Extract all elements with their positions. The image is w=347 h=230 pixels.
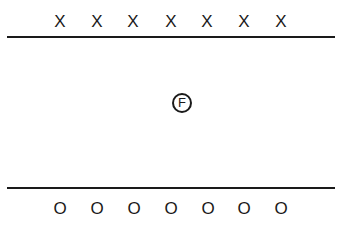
x-mark: X <box>234 10 254 34</box>
x-mark: X <box>271 10 291 34</box>
top-row-x: X X X X X X X <box>0 10 347 34</box>
bottom-row-o: O O O O O O O <box>0 197 347 221</box>
o-mark: O <box>198 197 218 221</box>
center-player-f: F <box>172 93 192 113</box>
o-mark: O <box>271 197 291 221</box>
x-mark: X <box>197 10 217 34</box>
player-label: F <box>178 95 186 110</box>
o-mark: O <box>87 197 107 221</box>
o-mark: O <box>124 197 144 221</box>
x-mark: X <box>123 10 143 34</box>
x-mark: X <box>161 10 181 34</box>
o-mark: O <box>161 197 181 221</box>
o-mark: O <box>50 197 70 221</box>
o-mark: O <box>234 197 254 221</box>
bottom-line <box>7 187 335 189</box>
top-line <box>7 36 335 38</box>
x-mark: X <box>87 10 107 34</box>
x-mark: X <box>50 10 70 34</box>
